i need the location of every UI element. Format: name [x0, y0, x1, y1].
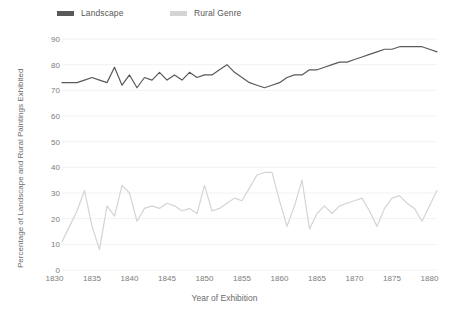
series-line-rural-genre [62, 172, 437, 249]
plot-area [0, 0, 449, 317]
series-line-landscape [62, 47, 437, 88]
chart-container: Landscape Rural Genre Percentage of Land… [0, 0, 449, 317]
